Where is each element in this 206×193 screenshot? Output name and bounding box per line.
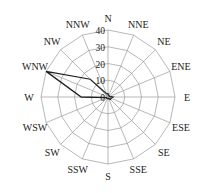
direction-label: WSW bbox=[23, 122, 48, 133]
direction-label: SE bbox=[158, 147, 170, 158]
direction-label: S bbox=[105, 171, 111, 182]
direction-label: E bbox=[184, 92, 190, 103]
radial-tick-label: 40 bbox=[96, 26, 106, 36]
spoke bbox=[61, 97, 108, 144]
radial-tick-label: 20 bbox=[96, 60, 106, 70]
direction-label: NE bbox=[157, 36, 170, 47]
direction-label: SSW bbox=[67, 164, 88, 175]
direction-label: W bbox=[24, 92, 34, 103]
wind-rose-chart: 010203040 NNNENEENEEESESESSESSSWSWWSWWWN… bbox=[0, 0, 206, 193]
direction-label: ENE bbox=[171, 61, 190, 72]
spoke bbox=[108, 97, 155, 144]
direction-label: SSE bbox=[130, 164, 147, 175]
radial-tick-label: 30 bbox=[96, 43, 106, 53]
direction-label: WNW bbox=[22, 61, 49, 72]
direction-label: ESE bbox=[172, 122, 190, 133]
direction-label: NNE bbox=[128, 19, 149, 30]
spoke bbox=[108, 50, 155, 97]
direction-label: NW bbox=[44, 36, 61, 47]
direction-label: NNW bbox=[66, 19, 90, 30]
radar-spokes bbox=[41, 30, 175, 164]
direction-label: N bbox=[104, 13, 111, 24]
direction-label: SW bbox=[45, 147, 61, 158]
spoke bbox=[61, 50, 108, 97]
